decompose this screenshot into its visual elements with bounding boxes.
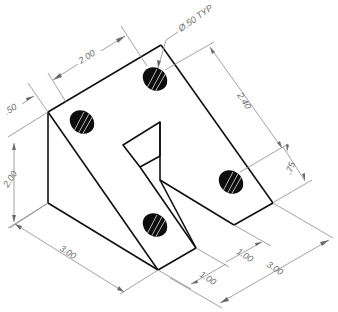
dim-slot-width: 1.00 <box>196 225 271 267</box>
dim-top-offset: .50 <box>3 83 48 117</box>
hole-callout-label: Ø.50 TYP <box>176 3 215 34</box>
top-width-label: 2.00 <box>76 48 97 66</box>
slot-offset-label: 1.00 <box>198 269 218 287</box>
slot-width-label: 1.00 <box>235 246 255 264</box>
hole-top-right <box>138 62 172 96</box>
width-right-label: 3.00 <box>265 259 285 277</box>
length-left-label: 3.00 <box>58 243 78 261</box>
hole-offset-right-label: .75 <box>283 160 297 176</box>
dim-slot-offset: 1.00 <box>158 264 226 289</box>
dim-depth-right: 2.40 <box>165 42 288 172</box>
isometric-drawing: Ø.50 TYP 2.00 .50 2.00 3.00 <box>0 0 338 312</box>
dim-hole-offset-right: .75 <box>274 144 312 202</box>
hole-top-left <box>65 105 99 139</box>
depth-right-label: 2.40 <box>235 90 253 111</box>
top-offset-label: .50 <box>3 102 19 117</box>
dim-length-left: 3.00 <box>10 203 158 294</box>
height-label: 2.00 <box>1 169 19 190</box>
dim-height: 2.00 <box>1 112 48 228</box>
hole-bottom <box>138 208 172 242</box>
dim-top-width: 2.00 <box>48 26 147 102</box>
